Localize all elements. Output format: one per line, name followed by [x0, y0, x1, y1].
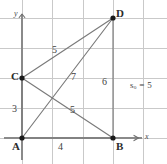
y-axis-label: y [14, 10, 18, 18]
vertex-point-D [110, 15, 115, 20]
edge-label-CD: 5 [52, 45, 57, 55]
scale-annotation: sₒ = 5 [130, 81, 152, 90]
vertex-label-C: C [11, 71, 19, 82]
vertex-point-C [19, 75, 24, 80]
edge-label-AB: 4 [58, 142, 63, 152]
x-axis-label: x [145, 133, 149, 141]
edge-label-BD: 6 [102, 77, 107, 87]
edge-label-AC: 3 [12, 104, 17, 114]
scale-annotation-text: sₒ = 5 [130, 80, 152, 90]
axis-arrowheads [19, 14, 138, 141]
vertex-point-A [19, 135, 24, 140]
geometry-diagram: A B C D 5 7 5 3 4 6 y x sₒ = 5 [0, 0, 167, 164]
edge-label-CB: 5 [70, 105, 75, 115]
vertex-label-D: D [116, 8, 124, 19]
vertex-point-B [110, 135, 115, 140]
vertex-label-A: A [12, 141, 20, 152]
edge-label-AD: 7 [71, 72, 76, 82]
vertex-label-B: B [116, 141, 123, 152]
